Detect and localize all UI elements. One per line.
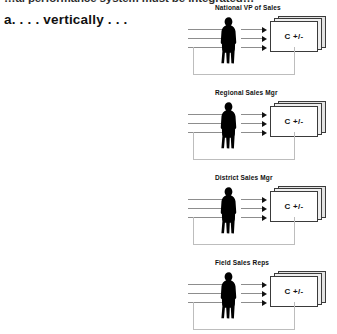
unit-label: District Sales Mgr: [215, 174, 273, 181]
diagram-unit-national-vp: National VP of Sales C +/-: [185, 0, 337, 85]
feedback-loop-line: [193, 47, 295, 75]
unit-label: National VP of Sales: [215, 4, 281, 11]
feedback-loop-line: [193, 302, 295, 330]
feedback-loop-line: [193, 132, 295, 160]
list-item-a: a. . . . vertically . . .: [4, 12, 128, 27]
diagram-unit-regional-mgr: Regional Sales Mgr C +/-: [185, 85, 337, 170]
document-text-column: …al performance system must be integrate…: [0, 0, 190, 60]
arrow-out-2: [241, 293, 263, 294]
arrow-out-1: [241, 199, 263, 200]
unit-label: Field Sales Reps: [215, 259, 269, 266]
diagram-unit-district-mgr: District Sales Mgr C +/-: [185, 170, 337, 255]
feedback-loop-line: [193, 217, 295, 245]
unit-label: Regional Sales Mgr: [215, 89, 278, 96]
diagram-unit-field-reps: Field Sales Reps C +/-: [185, 255, 337, 334]
vertical-integration-diagram: National VP of Sales C +/- Regional Sale…: [185, 0, 337, 323]
arrow-out-1: [241, 29, 263, 30]
arrow-out-1: [241, 284, 263, 285]
arrow-out-1: [241, 114, 263, 115]
arrow-out-2: [241, 38, 263, 39]
arrow-out-2: [241, 208, 263, 209]
arrow-out-2: [241, 123, 263, 124]
